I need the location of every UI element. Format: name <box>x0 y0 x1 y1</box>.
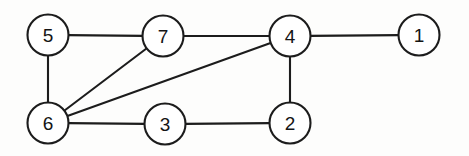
graph-node-label-5: 5 <box>43 25 54 46</box>
graph-node-1[interactable]: 1 <box>399 15 440 56</box>
graph-edge-4-1 <box>310 35 399 36</box>
edge-layer <box>48 35 399 124</box>
graph-node-label-4: 4 <box>285 26 296 47</box>
graph-edge-6-3 <box>68 123 145 124</box>
graph-node-label-1: 1 <box>414 25 425 46</box>
graph-node-label-6: 6 <box>43 113 54 134</box>
graph-node-label-2: 2 <box>285 113 296 134</box>
graph-node-4[interactable]: 4 <box>270 16 311 57</box>
graph-diagram: 5741632 <box>0 0 469 156</box>
graph-node-label-3: 3 <box>160 114 171 135</box>
node-layer: 5741632 <box>28 15 440 145</box>
graph-node-5[interactable]: 5 <box>28 15 69 56</box>
graph-node-2[interactable]: 2 <box>270 103 311 144</box>
graph-edge-5-7 <box>68 35 143 36</box>
graph-node-7[interactable]: 7 <box>143 16 184 57</box>
graph-node-label-7: 7 <box>158 26 169 47</box>
graph-node-6[interactable]: 6 <box>28 103 69 144</box>
graph-node-3[interactable]: 3 <box>145 104 186 145</box>
graph-edge-3-2 <box>185 123 270 124</box>
graph-canvas: 5741632 <box>0 0 469 156</box>
